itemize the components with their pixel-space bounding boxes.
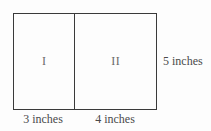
rectangle-outline: I II	[13, 13, 157, 110]
height-dimension-label: 5 inches	[163, 55, 203, 68]
region-I-width-dimension-label: 3 inches	[13, 113, 73, 126]
region-I-label: I	[42, 54, 47, 69]
figure-canvas: I II 5 inches 3 inches 4 inches	[0, 0, 211, 131]
region-II: II	[75, 14, 156, 109]
region-II-width-dimension-label: 4 inches	[73, 113, 157, 126]
region-I: I	[14, 14, 75, 109]
region-II-label: II	[111, 54, 120, 69]
